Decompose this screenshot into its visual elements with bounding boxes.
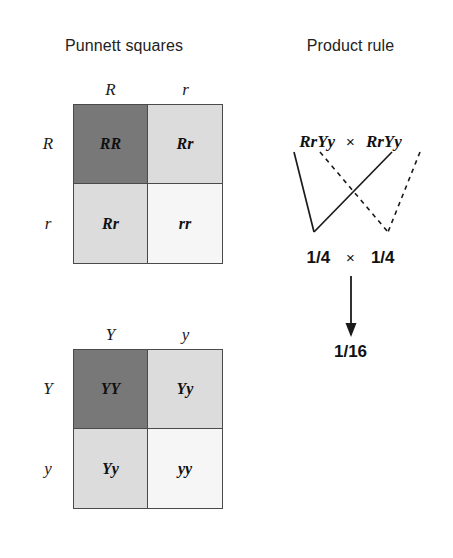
solid-connector-right (314, 152, 392, 232)
row-headers-rr: R r (33, 104, 63, 264)
row-header-y-recessive: y (33, 429, 63, 509)
dashed-connector-right (388, 152, 420, 232)
punnett-cell: Rr (74, 184, 148, 263)
result-row: 1/16 (248, 342, 453, 362)
probability-row: 1/4 × 1/4 (248, 248, 453, 268)
punnett-grid-yy: YY Yy Yy yy (73, 349, 223, 509)
result-arrow-head (346, 323, 357, 337)
cross-symbol: × (346, 133, 355, 150)
column-headers-rr: R r (73, 80, 223, 100)
punnett-cell: Yy (74, 429, 148, 508)
punnett-cell: Yy (148, 350, 222, 429)
probability-right: 1/4 (371, 248, 395, 268)
punnett-cell: yy (148, 429, 222, 508)
punnett-cell: YY (74, 350, 148, 429)
punnett-grid-rr: RR Rr Rr rr (73, 104, 223, 264)
parent-cross-row: RrYy × RrYy (248, 132, 453, 152)
multiply-symbol: × (346, 249, 355, 266)
row-header-y-dominant: Y (33, 349, 63, 429)
product-rule-section-title: Product rule (248, 37, 453, 55)
punnett-square-seed-shape: R r R r RR Rr Rr rr (73, 104, 223, 264)
probability-left: 1/4 (306, 248, 330, 268)
punnett-section-title: Punnett squares (0, 37, 248, 55)
punnett-cell: rr (148, 184, 222, 263)
row-header-r-recessive: r (33, 184, 63, 264)
parent-genotype-right: RrYy (366, 132, 402, 152)
result-probability: 1/16 (334, 342, 367, 361)
column-header-r-dominant: R (73, 80, 148, 100)
column-header-r-recessive: r (148, 80, 223, 100)
column-header-y-recessive: y (148, 325, 223, 345)
dashed-connector-left (320, 152, 388, 232)
punnett-cell: Rr (148, 105, 222, 184)
genetics-figure: Punnett squares Product rule R r R r RR … (0, 0, 453, 558)
column-header-y-dominant: Y (73, 325, 148, 345)
parent-genotype-left: RrYy (299, 132, 335, 152)
punnett-cell: RR (74, 105, 148, 184)
row-header-r-dominant: R (33, 104, 63, 184)
punnett-square-seed-color: Y y Y y YY Yy Yy yy (73, 349, 223, 509)
column-headers-yy: Y y (73, 325, 223, 345)
product-rule-diagram: RrYy × RrYy 1/4 × 1/4 1/16 (248, 110, 453, 400)
row-headers-yy: Y y (33, 349, 63, 509)
solid-connector-left (294, 152, 314, 232)
